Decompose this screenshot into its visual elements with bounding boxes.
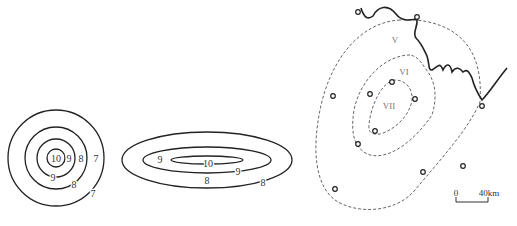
intensity-label-v: V bbox=[392, 35, 399, 45]
isoseismal-line-v bbox=[316, 20, 480, 210]
scale-bar: 0 40km bbox=[454, 188, 500, 202]
scale-bar-start-label: 0 bbox=[454, 188, 459, 198]
intensity-label-vi: VI bbox=[399, 67, 409, 77]
station-marker bbox=[333, 187, 338, 192]
station-marker bbox=[356, 142, 361, 147]
station-marker bbox=[421, 170, 426, 175]
isoseismal-map: VVIVII 0 40km bbox=[316, 7, 507, 209]
concentric-ellipses-figure: 910988 bbox=[122, 132, 292, 188]
station-marker bbox=[390, 80, 395, 85]
intensity-label-vii: VII bbox=[383, 101, 396, 111]
station-marker bbox=[368, 92, 373, 97]
contour-label: 9 bbox=[236, 166, 241, 177]
contour-label: 9 bbox=[51, 172, 56, 183]
contour-label: 8 bbox=[72, 179, 77, 190]
concentric-circles-figure: 10987987 bbox=[8, 110, 104, 206]
diagram-canvas: 10987987 910988 VVIVII 0 40km bbox=[0, 0, 517, 226]
station-marker bbox=[373, 129, 378, 134]
contour-label: 8 bbox=[205, 175, 210, 186]
contour-label: 8 bbox=[79, 153, 84, 164]
station-markers bbox=[331, 10, 485, 192]
station-marker bbox=[356, 10, 361, 15]
contour-label: 9 bbox=[158, 154, 163, 165]
contour-label: 10 bbox=[203, 158, 213, 169]
contour-label: 7 bbox=[91, 188, 96, 199]
scale-bar-end-label: 40km bbox=[479, 188, 500, 198]
station-marker bbox=[413, 97, 418, 102]
contour-label: 10 bbox=[51, 153, 61, 164]
contour-label: 8 bbox=[261, 177, 266, 188]
contour-label: 9 bbox=[67, 153, 72, 164]
station-marker bbox=[415, 15, 420, 20]
station-marker bbox=[331, 94, 336, 99]
river-line bbox=[361, 7, 507, 100]
contour-label: 7 bbox=[94, 153, 99, 164]
station-marker bbox=[480, 104, 485, 109]
station-marker bbox=[461, 164, 466, 169]
intensity-labels: VVIVII bbox=[383, 35, 409, 111]
